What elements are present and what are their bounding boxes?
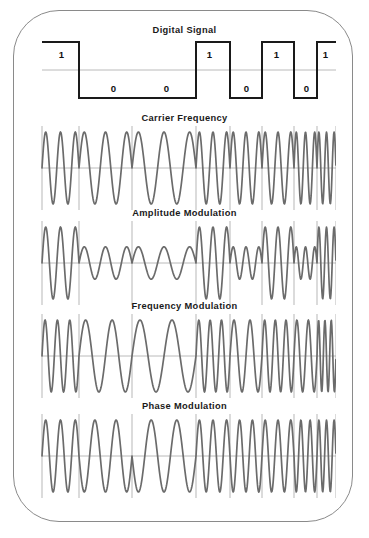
carrier-frequency-waveform [34,124,336,212]
phase-modulation-plot [34,412,336,500]
frequency-modulation-waveform [34,312,336,400]
panel-carrier-frequency: Carrier Frequency [0,112,369,212]
panel-title-digital-signal: Digital Signal [0,24,369,36]
bit-label: 0 [111,83,116,94]
frequency-modulation-plot [34,312,336,400]
bit-label: 1 [323,49,328,60]
carrier-frequency-plot [34,124,336,212]
phase-modulation-waveform [34,412,336,500]
panel-frequency-modulation: Frequency Modulation [0,300,369,400]
panel-title-carrier-frequency: Carrier Frequency [0,112,369,124]
bit-label: 0 [164,83,169,94]
amplitude-modulation-waveform [34,219,336,307]
panel-title-amplitude-modulation: Amplitude Modulation [0,207,369,219]
bit-label: 1 [59,49,64,60]
panel-digital-signal: Digital Signal 10010101 [0,24,369,106]
amplitude-modulation-plot [34,219,336,307]
bit-label: 1 [207,49,212,60]
bit-label: 0 [244,83,249,94]
digital-signal-waveform [34,36,336,106]
bit-label: 0 [304,83,309,94]
panel-amplitude-modulation: Amplitude Modulation [0,207,369,307]
bit-label: 1 [274,49,279,60]
panel-title-frequency-modulation: Frequency Modulation [0,300,369,312]
panel-title-phase-modulation: Phase Modulation [0,400,369,412]
panel-phase-modulation: Phase Modulation [0,400,369,500]
digital-signal-plot: 10010101 [34,36,336,106]
